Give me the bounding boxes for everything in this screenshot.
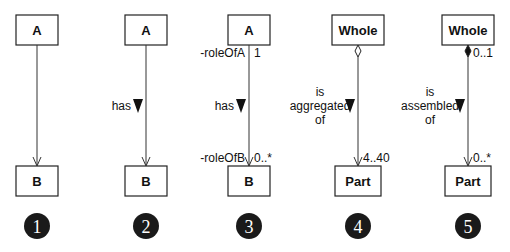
class-name-top: Whole — [339, 23, 378, 38]
role-name-bottom: -roleOfB — [200, 151, 245, 165]
multiplicity-bottom: 0..* — [254, 151, 272, 165]
class-name-top: Whole — [449, 23, 488, 38]
class-name-bottom: Part — [345, 174, 371, 189]
association-name-line: is — [316, 85, 325, 99]
class-name-top: A — [141, 23, 151, 38]
role-name-top: -roleOfA — [200, 46, 245, 60]
number-badge-label: 1 — [33, 217, 42, 237]
association-name-line: is — [426, 85, 435, 99]
multiplicity-top: 0..1 — [473, 46, 493, 60]
class-name-bottom: Part — [455, 174, 481, 189]
association-name-line: of — [425, 113, 436, 127]
composition-diamond-icon — [465, 45, 471, 57]
class-name-bottom: B — [244, 174, 253, 189]
class-name-bottom: B — [32, 174, 41, 189]
multiplicity-top: 1 — [254, 46, 261, 60]
reading-direction-triangle-icon — [133, 99, 143, 113]
number-badge-label: 2 — [142, 217, 151, 237]
association-name: has — [215, 99, 234, 113]
number-badge-label: 5 — [464, 217, 473, 237]
class-name-bottom: B — [141, 174, 150, 189]
association-name-line: of — [315, 113, 326, 127]
number-badge-label: 4 — [354, 217, 363, 237]
multiplicity-bottom: 4..40 — [363, 151, 390, 165]
class-name-top: A — [244, 23, 254, 38]
aggregation-diamond-icon — [355, 45, 361, 57]
class-name-top: A — [32, 23, 42, 38]
association-name-line: assembled — [401, 99, 459, 113]
uml-diagram: AB1ABhas2ABhas-roleOfA1-roleOfB0..*3Whol… — [0, 0, 510, 252]
number-badge-label: 3 — [245, 217, 254, 237]
reading-direction-triangle-icon — [236, 99, 246, 113]
association-name-line: aggregated — [290, 99, 351, 113]
association-name: has — [112, 99, 131, 113]
multiplicity-bottom: 0..* — [473, 151, 491, 165]
